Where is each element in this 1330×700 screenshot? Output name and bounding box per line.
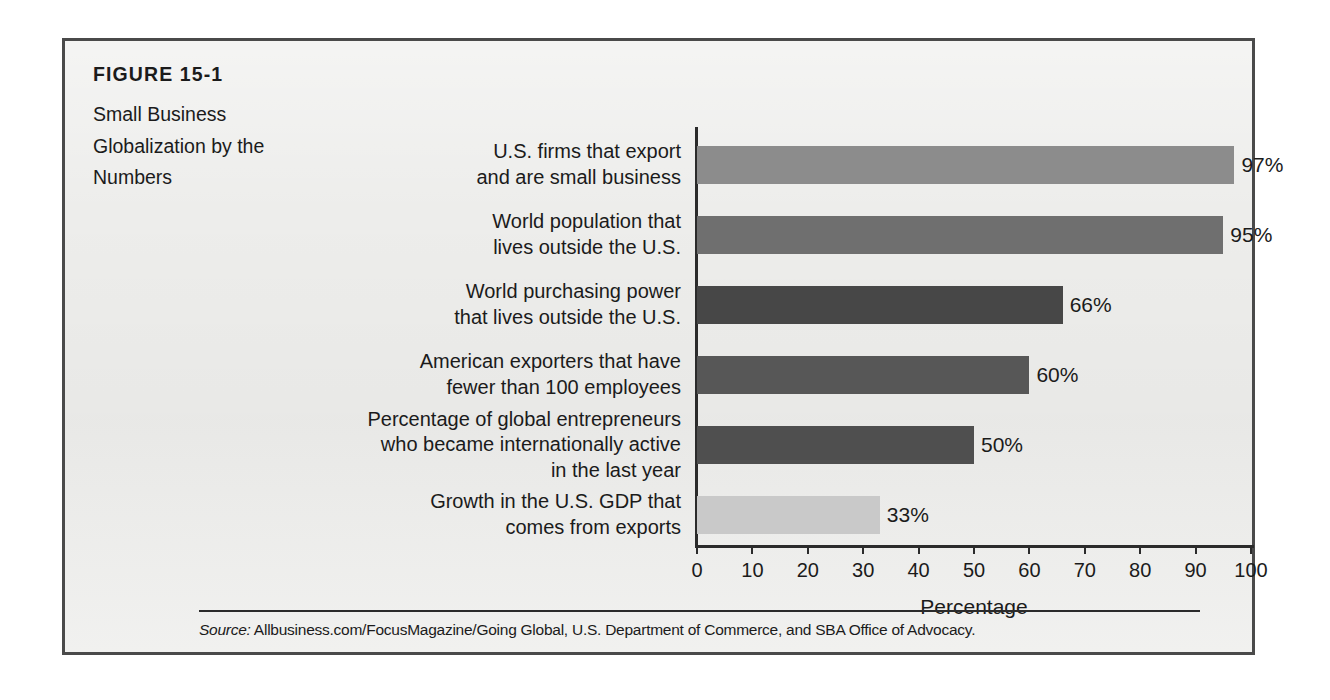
source-lead: Source: (199, 621, 251, 638)
x-axis-tick-mark (751, 545, 753, 554)
figure-number: FIGURE 15-1 (93, 63, 343, 86)
source-text: Allbusiness.com/FocusMagazine/Going Glob… (251, 621, 976, 638)
x-axis-title: Percentage (697, 595, 1251, 619)
x-axis-tick-label: 0 (691, 559, 702, 582)
bar-value-label: 50% (974, 433, 1023, 457)
x-axis-tick-mark (1250, 545, 1252, 554)
bar (697, 216, 1223, 254)
bar (697, 286, 1063, 324)
bar (697, 426, 974, 464)
source-divider (199, 610, 1200, 612)
x-axis-tick-label: 20 (797, 559, 819, 582)
x-axis-tick-label: 30 (852, 559, 874, 582)
bar-row: 95% (697, 216, 1251, 254)
chart-plot-area: 97%95%66%60%50%33% U.S. firms that expor… (697, 127, 1251, 545)
category-label: World population that lives outside the … (251, 209, 681, 260)
x-axis-tick-label: 80 (1129, 559, 1151, 582)
bar (697, 496, 880, 534)
category-label: Growth in the U.S. GDP that comes from e… (251, 489, 681, 540)
bar-value-label: 33% (880, 503, 929, 527)
x-axis-tick-mark (807, 545, 809, 554)
figure-frame: FIGURE 15-1 Small Business Globalization… (62, 38, 1255, 655)
x-axis-tick-mark (1084, 545, 1086, 554)
bar-value-label: 66% (1063, 293, 1112, 317)
category-label: Percentage of global entrepreneurs who b… (251, 407, 681, 484)
bar-row: 97% (697, 146, 1251, 184)
bar (697, 146, 1234, 184)
source-note: Source: Allbusiness.com/FocusMagazine/Go… (199, 621, 1219, 639)
bar-row: 50% (697, 426, 1251, 464)
x-axis-tick-mark (1028, 545, 1030, 554)
x-axis-tick-label: 40 (907, 559, 929, 582)
bar-value-label: 95% (1223, 223, 1272, 247)
x-axis-tick-label: 10 (741, 559, 763, 582)
x-axis-tick-mark (696, 545, 698, 554)
category-label: U.S. firms that export and are small bus… (251, 139, 681, 190)
bar-row: 60% (697, 356, 1251, 394)
y-axis-line (695, 127, 698, 545)
bar-row: 66% (697, 286, 1251, 324)
x-axis-tick-label: 90 (1184, 559, 1206, 582)
x-axis-tick-mark (973, 545, 975, 554)
bar-value-label: 97% (1234, 153, 1283, 177)
bar-value-label: 60% (1029, 363, 1078, 387)
x-axis-tick-mark (862, 545, 864, 554)
category-label: American exporters that have fewer than … (251, 349, 681, 400)
x-axis-tick-label: 60 (1018, 559, 1040, 582)
x-axis-tick-label: 50 (963, 559, 985, 582)
category-label: World purchasing power that lives outsid… (251, 279, 681, 330)
x-axis-tick-mark (918, 545, 920, 554)
x-axis-tick-mark (1195, 545, 1197, 554)
x-axis-tick-label: 70 (1074, 559, 1096, 582)
x-axis-tick-mark (1139, 545, 1141, 554)
bar-row: 33% (697, 496, 1251, 534)
x-axis-tick-label: 100 (1234, 559, 1267, 582)
bar (697, 356, 1029, 394)
